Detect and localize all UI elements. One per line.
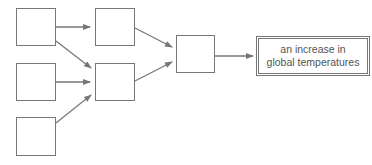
- arrow-a3-b2: [56, 95, 91, 123]
- arrow-a1-b2: [56, 41, 91, 68]
- arrow-b2-c1: [135, 62, 172, 81]
- arrows-layer: [0, 0, 372, 165]
- arrow-b1-c1: [135, 28, 172, 47]
